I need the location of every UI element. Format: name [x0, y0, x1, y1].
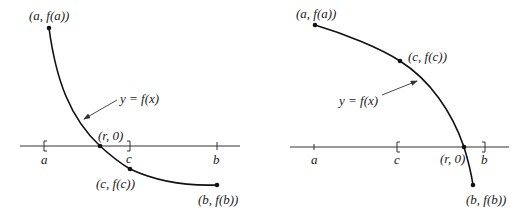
label-a-fa: (a, f(a)) [296, 6, 336, 21]
point-root [462, 145, 467, 150]
function-curve [49, 28, 217, 185]
curve-label-arrow [84, 100, 117, 119]
label-b-fb: (b, f(b)) [466, 192, 506, 207]
point-a-fa [47, 26, 52, 31]
label-b-fb: (b, f(b)) [198, 192, 238, 207]
label-curve: y = f(x) [118, 91, 159, 106]
right-panel: (a, f(a)) (c, f(c)) y = f(x) a c (r, 0) … [290, 6, 509, 207]
curve-label-arrow [382, 81, 417, 95]
label-b: b [481, 152, 488, 167]
label-curve: y = f(x) [337, 93, 378, 108]
bisection-diagram: (a, f(a)) y = f(x) (r, 0) a c b (c, f(c)… [0, 0, 528, 221]
point-b-fb [215, 183, 220, 188]
point-c-fc [128, 167, 133, 172]
label-c-fc: (c, f(c)) [408, 49, 447, 64]
label-a: a [41, 152, 48, 167]
point-c-fc [398, 59, 403, 64]
point-b-fb [471, 183, 476, 188]
label-c: c [394, 152, 400, 167]
label-b: b [213, 152, 220, 167]
point-root [98, 144, 103, 149]
left-panel: (a, f(a)) y = f(x) (r, 0) a c b (c, f(c)… [20, 8, 240, 207]
label-c: c [126, 151, 132, 166]
label-root: (r, 0) [98, 128, 123, 143]
label-root: (r, 0) [440, 151, 465, 166]
label-c-fc: (c, f(c)) [96, 176, 135, 191]
point-a-fa [313, 23, 318, 28]
label-a-fa: (a, f(a)) [29, 8, 69, 23]
label-a: a [311, 152, 318, 167]
